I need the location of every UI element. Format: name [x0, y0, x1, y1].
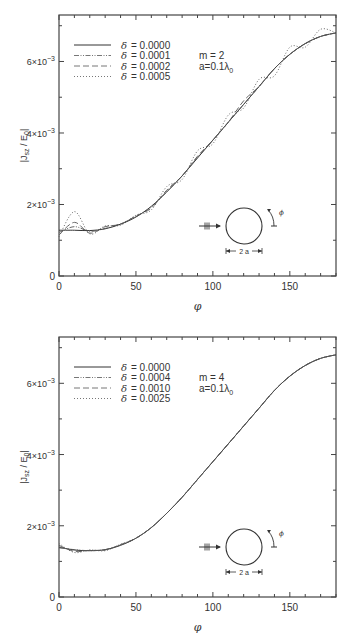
x-axis-label: φ — [194, 621, 202, 634]
figure: 05010015002×10−34×10−36×10−3φ|Jsz / E0|δ… — [0, 0, 349, 644]
legend-label: = 0.0000 — [131, 362, 171, 373]
series-line-2 — [59, 33, 336, 233]
annotation-m: m = 2 — [199, 50, 225, 61]
cylinder-inset-diagram: ϕ2 a — [199, 529, 284, 576]
y-axis-label: |Jsz / E0| — [19, 450, 30, 484]
inset-phi-label: ϕ — [279, 209, 284, 217]
y-tick-label: 4×10−3 — [27, 449, 55, 461]
inset-diameter-label: 2 a — [239, 248, 249, 255]
legend-delta-symbol: δ — [121, 362, 127, 373]
inset-diameter-label: 2 a — [239, 569, 249, 576]
x-tick-label: 150 — [281, 602, 298, 613]
annotation-radius: a=0.1λ0 — [199, 61, 233, 74]
series-line-2 — [59, 355, 336, 551]
legend-delta-symbol: δ — [121, 71, 127, 82]
series-line-4 — [59, 355, 336, 553]
y-tick-label: 4×10−3 — [27, 127, 55, 139]
series-line-1 — [59, 33, 336, 231]
angle-phi-arrow-icon — [268, 210, 274, 226]
inset-phi-label: ϕ — [279, 530, 284, 538]
x-axis-label: φ — [194, 300, 202, 313]
legend-label: = 0.0010 — [131, 383, 171, 394]
legend-delta-symbol: δ — [121, 383, 127, 394]
x-tick-label: 50 — [130, 281, 142, 292]
legend-label: = 0.0025 — [131, 393, 171, 404]
legend-delta-symbol: δ — [121, 372, 127, 383]
chart-panel-2: 05010015002×10−34×10−36×10−3φ|Jsz / E0|δ… — [19, 337, 336, 634]
y-tick-label: 6×10−3 — [27, 55, 55, 67]
y-tick-label: 6×10−3 — [27, 377, 55, 389]
x-tick-label: 150 — [281, 281, 298, 292]
cylinder-circle-icon — [226, 208, 262, 244]
x-tick-label: 0 — [56, 602, 62, 613]
legend: δ = 0.0000δ = 0.0001δ = 0.0002δ = 0.0005 — [74, 40, 171, 83]
cylinder-circle-icon — [226, 529, 262, 565]
plot-frame — [59, 15, 336, 276]
chart-panel-1: 05010015002×10−34×10−36×10−3φ|Jsz / E0|δ… — [19, 15, 336, 313]
series-line-4 — [59, 29, 336, 237]
x-tick-label: 100 — [205, 602, 222, 613]
legend-label: = 0.0005 — [131, 71, 171, 82]
x-tick-label: 50 — [130, 602, 142, 613]
series-line-3 — [59, 355, 336, 552]
legend-label: = 0.0002 — [131, 61, 171, 72]
series-line-1 — [59, 355, 336, 551]
y-axis-label: |Jsz / E0| — [19, 129, 30, 163]
legend-delta-symbol: δ — [121, 61, 127, 72]
legend-label: = 0.0001 — [131, 50, 171, 61]
plot-frame — [59, 337, 336, 597]
legend-label: = 0.0004 — [131, 372, 171, 383]
legend: δ = 0.0000δ = 0.0004δ = 0.0010δ = 0.0025 — [74, 362, 171, 405]
legend-delta-symbol: δ — [121, 393, 127, 404]
legend-delta-symbol: δ — [121, 50, 127, 61]
legend-delta-symbol: δ — [121, 40, 127, 51]
y-tick-label: 2×10−3 — [27, 520, 55, 532]
y-tick-label: 0 — [49, 271, 55, 282]
legend-label: = 0.0000 — [131, 40, 171, 51]
y-tick-label: 2×10−3 — [27, 198, 55, 210]
series-line-3 — [59, 33, 336, 235]
annotation-radius: a=0.1λ0 — [199, 383, 233, 396]
x-tick-label: 0 — [56, 281, 62, 292]
annotation-m: m = 4 — [199, 372, 225, 383]
angle-phi-arrow-icon — [268, 531, 274, 547]
cylinder-inset-diagram: ϕ2 a — [199, 208, 284, 255]
x-tick-label: 100 — [205, 281, 222, 292]
y-tick-label: 0 — [49, 592, 55, 603]
